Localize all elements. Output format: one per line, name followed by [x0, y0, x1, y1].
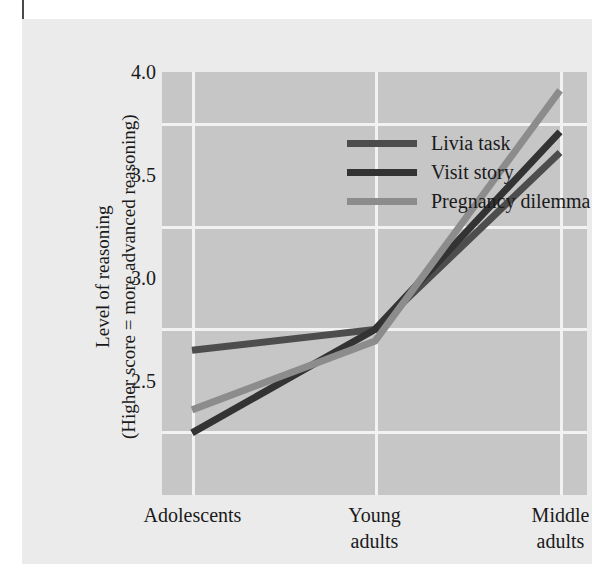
y-axis-ticks: 4.0 3.5 3.0 2.5 — [104, 72, 156, 495]
figure-container: Level of reasoning (Higher score = more … — [0, 0, 602, 578]
legend-label: Visit story — [431, 161, 514, 184]
y-tick-label: 3.0 — [110, 268, 156, 288]
legend-swatch-icon — [347, 198, 417, 205]
x-tick-label-middle-adults: Middle adults — [468, 503, 602, 554]
legend: Livia task Visit story Pregnancy dilemma — [347, 129, 602, 216]
y-tick-label: 4.0 — [110, 62, 156, 82]
x-tick-label-adolescents: Adolescents — [100, 503, 285, 529]
y-tick-label: 3.5 — [110, 165, 156, 185]
page-margin-rule — [22, 0, 24, 20]
legend-swatch-icon — [347, 140, 417, 147]
legend-swatch-icon — [347, 169, 417, 176]
plot-area: Livia task Visit story Pregnancy dilemma — [162, 72, 587, 495]
y-tick-label: 2.5 — [110, 371, 156, 391]
x-tick-label-young-adults: Young adults — [282, 503, 467, 554]
legend-label: Pregnancy dilemma — [431, 190, 590, 213]
figure-panel: Level of reasoning (Higher score = more … — [22, 19, 592, 564]
legend-item-pregnancy-dilemma: Pregnancy dilemma — [347, 187, 602, 216]
legend-item-visit-story: Visit story — [347, 158, 602, 187]
legend-label: Livia task — [431, 132, 510, 155]
legend-item-livia-task: Livia task — [347, 129, 602, 158]
